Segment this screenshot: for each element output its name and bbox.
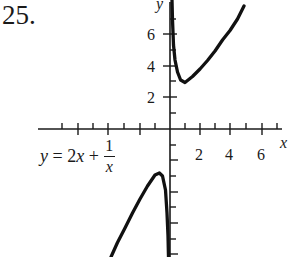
- y-tick-label-4: 4: [147, 58, 155, 75]
- x-axis-label: x: [279, 134, 287, 151]
- formula-numerator: 1: [105, 138, 113, 154]
- formula-denominator: x: [106, 159, 113, 175]
- fraction-bar: [104, 156, 115, 157]
- y-tick-label-6: 6: [147, 26, 155, 43]
- curve-left-branch: [111, 173, 169, 257]
- y-axis-label: y: [154, 0, 164, 13]
- function-graph: 6 4 2 2 4 6 x y: [0, 0, 293, 257]
- x-tick-label-4: 4: [225, 146, 233, 163]
- y-tick-label-2: 2: [147, 89, 155, 106]
- function-formula-label: y = 2x + 1 x: [40, 138, 115, 175]
- x-tick-label-6: 6: [257, 146, 265, 163]
- formula-lhs: y = 2x +: [40, 146, 99, 167]
- curve-right-branch: [172, 0, 244, 83]
- x-tick-label-2: 2: [195, 146, 203, 163]
- formula-fraction: 1 x: [104, 138, 115, 175]
